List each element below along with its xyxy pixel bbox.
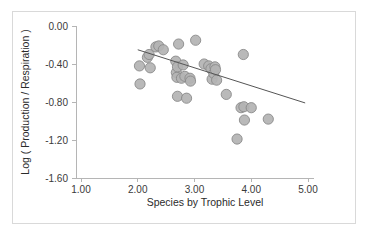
data-point-marker (145, 63, 155, 73)
data-point-marker (212, 75, 222, 85)
y-axis-tick-label: -1.20 (45, 135, 68, 146)
data-point-marker (185, 76, 195, 86)
x-axis-tick-label: 3.00 (185, 184, 205, 195)
scatter-plot-svg: 1.002.003.004.005.00 0.00-0.40-0.80-1.20… (0, 0, 368, 236)
data-point-marker (174, 39, 184, 49)
data-point-marker (232, 134, 242, 144)
data-point-marker (172, 91, 182, 101)
x-axis-tick-label: 2.00 (128, 184, 148, 195)
x-axis-tick-label: 5.00 (298, 184, 318, 195)
data-point-marker (135, 79, 145, 89)
y-axis-tick-label: -0.80 (45, 97, 68, 108)
y-axis-tick-label: -1.60 (45, 173, 68, 184)
y-axis-title: Log ( Production / Respiration ) (19, 29, 31, 174)
data-point-marker (158, 45, 168, 55)
chart-figure: 1.002.003.004.005.00 0.00-0.40-0.80-1.20… (0, 0, 368, 236)
y-axis-tick-label: 0.00 (49, 21, 69, 32)
y-axis-tick-labels: 0.00-0.40-0.80-1.20-1.60 (45, 21, 68, 184)
data-point-markers (134, 35, 273, 144)
data-point-marker (239, 115, 249, 125)
data-point-marker (181, 93, 191, 103)
x-axis-tick-label: 4.00 (242, 184, 262, 195)
data-point-marker (238, 49, 248, 59)
x-axis-tick-labels: 1.002.003.004.005.00 (71, 184, 318, 195)
data-point-marker (263, 114, 273, 124)
y-axis-tick-label: -0.40 (45, 59, 68, 70)
axes-group (72, 26, 314, 182)
data-point-marker (134, 61, 144, 71)
data-point-marker (246, 103, 256, 113)
x-axis-tick-label: 1.00 (71, 184, 91, 195)
data-point-marker (191, 35, 201, 45)
x-axis-title: Species by Trophic Level (147, 196, 264, 208)
data-point-marker (221, 89, 231, 99)
